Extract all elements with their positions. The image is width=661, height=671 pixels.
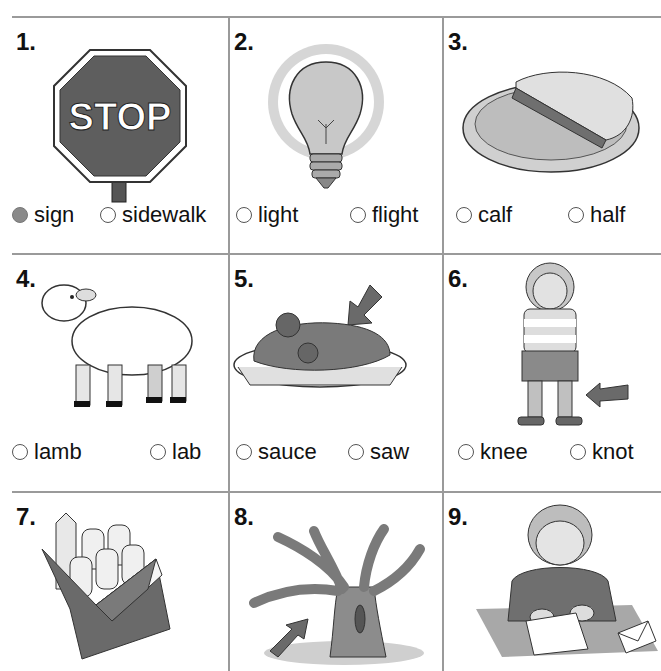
option-label: flight (372, 202, 418, 228)
option-label: saw (370, 439, 409, 465)
radio-empty-icon[interactable] (100, 207, 116, 223)
option-label: calf (478, 202, 512, 228)
option-calf[interactable]: calf (456, 202, 512, 228)
option-label: sign (34, 202, 74, 228)
item-number: 3. (448, 28, 468, 56)
option-label: lab (172, 439, 201, 465)
option-label: half (590, 202, 625, 228)
item-number: 4. (16, 265, 36, 293)
option-label: light (258, 202, 298, 228)
radio-empty-icon[interactable] (236, 207, 252, 223)
cell-3: 3. calf half (444, 18, 661, 253)
option-half[interactable]: half (568, 202, 625, 228)
option-light[interactable]: light (236, 202, 298, 228)
radio-empty-icon[interactable] (348, 444, 364, 460)
radio-empty-icon[interactable] (150, 444, 166, 460)
tree-icon (234, 517, 434, 667)
radio-empty-icon[interactable] (570, 444, 586, 460)
cell-1: 1. STOP sign sidewalk (12, 18, 228, 253)
stop-sign-icon: STOP (50, 46, 190, 206)
girl-writing-letter-icon (472, 501, 658, 667)
option-label: knee (480, 439, 528, 465)
spaghetti-sauce-icon (230, 277, 420, 407)
cell-2: 2. light flight (230, 18, 442, 253)
radio-empty-icon[interactable] (350, 207, 366, 223)
pie-icon (456, 58, 646, 178)
lamb-icon (34, 269, 194, 409)
cell-8: 8. (230, 493, 442, 671)
cell-7: 7. (12, 493, 228, 671)
radio-empty-icon[interactable] (458, 444, 474, 460)
option-label: sauce (258, 439, 317, 465)
option-saw[interactable]: saw (348, 439, 409, 465)
option-label: sidewalk (122, 202, 206, 228)
radio-filled-icon[interactable] (12, 207, 28, 223)
radio-empty-icon[interactable] (12, 444, 28, 460)
item-number: 1. (16, 28, 36, 56)
radio-empty-icon[interactable] (236, 444, 252, 460)
radio-empty-icon[interactable] (456, 207, 472, 223)
svg-text:STOP: STOP (69, 96, 172, 138)
option-knot[interactable]: knot (570, 439, 634, 465)
light-bulb-icon (256, 40, 396, 200)
cell-9: 9. (444, 493, 661, 671)
option-lamb[interactable]: lamb (12, 439, 82, 465)
item-number: 9. (448, 503, 468, 531)
cell-4: 4. lamb lab (12, 255, 228, 491)
option-lab[interactable]: lab (150, 439, 201, 465)
option-sauce[interactable]: sauce (236, 439, 317, 465)
option-flight[interactable]: flight (350, 202, 418, 228)
option-sidewalk[interactable]: sidewalk (100, 202, 206, 228)
option-knee[interactable]: knee (458, 439, 528, 465)
cell-5: 5. sauce saw (230, 255, 442, 491)
item-number: 2. (234, 28, 254, 56)
cell-6: 6. knee knot (444, 255, 661, 491)
item-number: 6. (448, 265, 468, 293)
option-label: knot (592, 439, 634, 465)
chalk-box-icon (30, 509, 180, 669)
radio-empty-icon[interactable] (568, 207, 584, 223)
option-label: lamb (34, 439, 82, 465)
girl-knee-icon (504, 261, 634, 427)
option-sign[interactable]: sign (12, 202, 74, 228)
